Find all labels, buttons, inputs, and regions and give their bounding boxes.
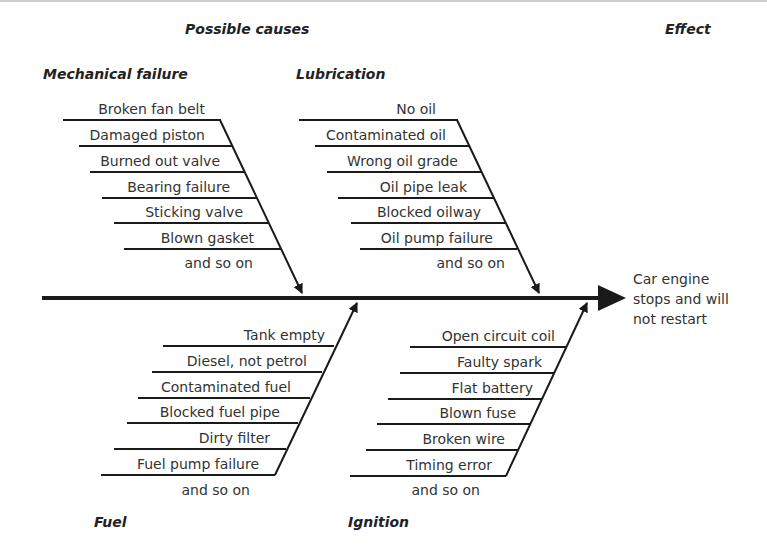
main-spine (42, 285, 626, 311)
more-fuel: and so on (181, 482, 250, 498)
cause-lubrication-6: Oil pump failure (381, 230, 493, 246)
cause-fuel-5: Dirty filter (199, 430, 270, 446)
cause-lubrication-1: No oil (396, 101, 436, 117)
effect-line-2: stops and will (633, 289, 743, 309)
cause-ignition-3: Flat battery (451, 380, 533, 396)
cause-lubrication-3: Wrong oil grade (347, 153, 458, 169)
more-mechanical: and so on (184, 255, 253, 271)
cause-fuel-3: Contaminated fuel (161, 379, 291, 395)
cause-lubrication-5: Blocked oilway (377, 204, 481, 220)
cause-ignition-2: Faulty spark (457, 354, 542, 370)
category-title-fuel: Fuel (94, 514, 126, 530)
cause-fuel-2: Diesel, not petrol (187, 353, 307, 369)
cause-mechanical-6: Blown gasket (161, 230, 254, 246)
cause-ignition-5: Broken wire (422, 431, 505, 447)
effect-line-3: not restart (633, 309, 743, 329)
possible-causes-heading: Possible causes (185, 21, 309, 37)
category-title-lubrication: Lubrication (296, 66, 385, 82)
cause-fuel-6: Fuel pump failure (137, 456, 259, 472)
more-lubrication: and so on (436, 255, 505, 271)
cause-mechanical-3: Burned out valve (100, 153, 220, 169)
cause-ignition-4: Blown fuse (439, 405, 516, 421)
cause-mechanical-2: Damaged piston (90, 127, 205, 143)
cause-mechanical-1: Broken fan belt (98, 101, 205, 117)
cause-ignition-6: Timing error (406, 457, 492, 473)
category-title-mechanical: Mechanical failure (43, 66, 188, 82)
cause-lubrication-4: Oil pipe leak (380, 179, 467, 195)
more-ignition: and so on (411, 482, 480, 498)
main-arrowhead-icon (598, 285, 626, 311)
cause-ignition-1: Open circuit coil (442, 328, 555, 344)
cause-fuel-4: Blocked fuel pipe (160, 404, 280, 420)
effect-line-1: Car engine (633, 269, 743, 289)
category-title-ignition: Ignition (348, 514, 409, 530)
effect-heading: Effect (665, 21, 711, 37)
cause-mechanical-4: Bearing failure (127, 179, 230, 195)
effect-description: Car engine stops and will not restart (633, 269, 743, 329)
cause-lubrication-2: Contaminated oil (326, 127, 446, 143)
cause-mechanical-5: Sticking valve (145, 204, 243, 220)
cause-fuel-1: Tank empty (244, 327, 325, 343)
